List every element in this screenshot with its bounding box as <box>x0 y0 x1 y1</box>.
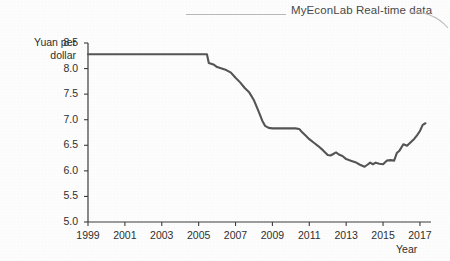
x-axis-ticks <box>88 222 420 226</box>
y-axis-tick-label: 5.0 <box>52 215 78 227</box>
y-axis-tick-label: 6.0 <box>52 164 78 176</box>
x-axis-tick-label: 2001 <box>105 229 145 241</box>
x-axis-tick-label: 2005 <box>179 229 219 241</box>
chart-screenshot: MyEconLab Real-time data Yuan per dollar… <box>0 0 450 261</box>
chart-axes <box>88 43 431 222</box>
x-axis-tick-label: 2011 <box>289 229 329 241</box>
y-axis-tick-label: 6.5 <box>52 138 78 150</box>
x-axis-tick-label: 1999 <box>68 229 108 241</box>
x-axis-tick-label: 2003 <box>142 229 182 241</box>
y-axis-tick-label: 8.5 <box>52 36 78 48</box>
y-axis-tick-label: 8.0 <box>52 62 78 74</box>
y-axis-tick-label: 7.0 <box>52 113 78 125</box>
x-axis-tick-label: 2007 <box>216 229 256 241</box>
y-axis-tick-label: 7.5 <box>52 87 78 99</box>
data-series-line <box>88 54 425 167</box>
x-axis-tick-label: 2015 <box>363 229 403 241</box>
y-axis-tick-label: 5.5 <box>52 189 78 201</box>
x-axis-tick-label: 2013 <box>326 229 366 241</box>
x-axis-tick-label: 2009 <box>252 229 292 241</box>
x-axis-tick-label: 2017 <box>400 229 440 241</box>
